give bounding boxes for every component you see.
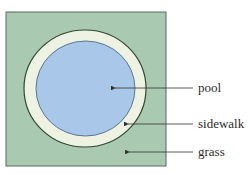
grass-label: grass bbox=[198, 145, 225, 158]
pool-label: pool bbox=[198, 81, 221, 94]
pool-diagram: pool sidewalk grass bbox=[0, 0, 250, 175]
sidewalk-label: sidewalk bbox=[198, 117, 244, 130]
pool-region bbox=[36, 41, 135, 136]
